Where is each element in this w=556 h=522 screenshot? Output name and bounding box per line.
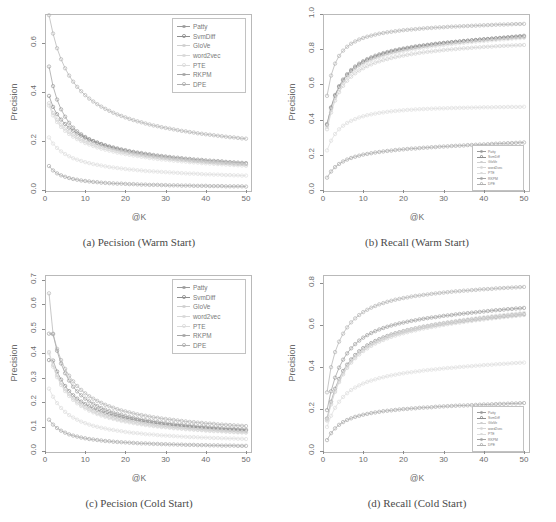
series-pte [47, 136, 247, 178]
x-tick-mark [166, 451, 167, 454]
legend-marker-icon [177, 42, 190, 49]
legend-item-glove: GloVe [177, 302, 241, 312]
legend-label: DPE [488, 182, 495, 186]
legend-marker-icon [177, 23, 190, 30]
legend-marker-icon [177, 294, 190, 301]
legend-marker-icon [177, 71, 190, 78]
x-tick-label: 30 [439, 194, 448, 203]
legend-label: GloVe [488, 421, 497, 425]
x-tick-mark [45, 190, 46, 193]
legend-label: DPE [488, 443, 495, 447]
legend-d: PattySvmDiffGloVeword2vecPTERKPMDPE [472, 406, 524, 452]
legend-label: GloVe [488, 160, 497, 164]
legend-label: DPE [193, 342, 206, 349]
x-tick-label: 10 [359, 455, 368, 464]
legend-label: SvmDiff [488, 155, 500, 159]
legend-label: RKPM [488, 438, 498, 442]
legend-item-dpe: DPE [177, 80, 241, 90]
x-tick-label: 30 [161, 455, 170, 464]
legend-marker-icon [177, 81, 190, 88]
x-tick-mark [484, 451, 485, 454]
plot-area-d: Precision 0.00.20.40.60.8 PattySvmDiffGl… [278, 261, 556, 476]
legend-item-svmdiff: SvmDiff [177, 32, 241, 42]
legend-marker-icon [477, 410, 486, 415]
legend-label: Patty [193, 284, 208, 291]
legend-marker-icon [177, 284, 190, 291]
caption-c: (c) Pecision (Cold Start) [0, 497, 278, 509]
x-tick-label: 40 [201, 455, 210, 464]
x-tick-label: 20 [399, 194, 408, 203]
x-tick-label: 0 [321, 194, 325, 203]
x-tick-label: 0 [43, 194, 47, 203]
legend-label: Patty [193, 23, 208, 30]
legend-marker-icon [477, 155, 486, 160]
legend-label: word2vec [193, 313, 220, 320]
legend-label: SvmDiff [193, 33, 215, 40]
legend-marker-icon [477, 182, 486, 187]
x-tick-label: 50 [242, 194, 251, 203]
legend-label: word2vec [488, 427, 503, 431]
series-dpe [325, 285, 525, 394]
x-tick-mark [125, 451, 126, 454]
legend-label: PTE [193, 323, 205, 330]
x-tick-mark [363, 451, 364, 454]
x-tick-mark [45, 451, 46, 454]
x-axis-ticks-a: 01020304050 [0, 190, 278, 212]
x-axis-ticks-d: 01020304050 [278, 451, 556, 473]
legend-label: PTE [193, 62, 205, 69]
x-tick-label: 50 [520, 194, 529, 203]
x-tick-label: 20 [121, 455, 130, 464]
legend-item-pte: PTE [177, 60, 241, 70]
legend-marker-icon [177, 33, 190, 40]
legend-marker-icon [477, 432, 486, 437]
x-tick-label: 0 [321, 455, 325, 464]
x-tick-mark [444, 451, 445, 454]
legend-marker-icon [477, 176, 486, 181]
legend-item-dpe: DPE [477, 442, 519, 447]
legend-label: RKPM [193, 71, 211, 78]
series-patty [325, 306, 525, 412]
legend-marker-icon [477, 160, 486, 165]
x-tick-mark [363, 190, 364, 193]
legend-marker-icon [477, 171, 486, 176]
legend-marker-icon [477, 149, 486, 154]
legend-label: RKPM [193, 332, 211, 339]
legend-marker-icon [177, 342, 190, 349]
x-tick-mark [444, 190, 445, 193]
legend-label: RKPM [488, 177, 498, 181]
x-tick-mark [323, 190, 324, 193]
caption-d: (d) Recall (Cold Start) [278, 497, 556, 509]
legend-marker-icon [177, 323, 190, 330]
x-axis-ticks-c: 01020304050 [0, 451, 278, 473]
legend-marker-icon [177, 332, 190, 339]
x-tick-label: 30 [439, 455, 448, 464]
series-dpe [325, 22, 525, 97]
legend-label: PTE [488, 171, 495, 175]
x-axis-label-d: @K [278, 473, 556, 483]
x-tick-mark [484, 190, 485, 193]
x-tick-label: 20 [121, 194, 130, 203]
legend-c: PattySvmDiffGloVeword2vecPTERKPMDPE [172, 279, 246, 354]
legend-item-pte: PTE [177, 321, 241, 331]
legend-label: word2vec [488, 166, 503, 170]
caption-a: (a) Pecision (Warm Start) [0, 236, 278, 248]
x-tick-label: 10 [81, 455, 90, 464]
legend-item-patty: Patty [177, 283, 241, 293]
x-tick-label: 0 [43, 455, 47, 464]
legend-marker-icon [177, 62, 190, 69]
x-tick-mark [246, 190, 247, 193]
x-tick-mark [85, 190, 86, 193]
x-axis-label-c: @K [0, 473, 278, 483]
legend-item-patty: Patty [177, 22, 241, 32]
legend-marker-icon [177, 303, 190, 310]
x-tick-mark [403, 190, 404, 193]
legend-label: SvmDiff [488, 416, 500, 420]
legend-a: PattySvmDiffGloVeword2vecPTERKPMDPE [172, 18, 246, 93]
panel-b-recall-warm-start: Precision 0.00.20.40.60.81.0 PattySvmDif… [278, 0, 556, 261]
legend-marker-icon [477, 426, 486, 431]
legend-marker-icon [177, 52, 190, 59]
legend-item-dpe: DPE [477, 181, 519, 186]
plot-area-b: Precision 0.00.20.40.60.81.0 PattySvmDif… [278, 0, 556, 215]
x-tick-mark [166, 190, 167, 193]
x-tick-label: 50 [520, 455, 529, 464]
